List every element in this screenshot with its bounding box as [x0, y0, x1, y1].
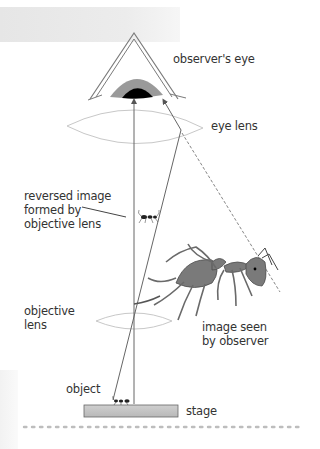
- eye-lens-icon: [67, 110, 203, 144]
- light-rays: [113, 101, 280, 404]
- label-eye-lens: eye lens: [211, 119, 258, 133]
- image-seen-ant-icon: [148, 244, 278, 320]
- label-reversed-image: reversed image formed by objective lens: [24, 189, 111, 231]
- label-objective-lens: objective lens: [24, 304, 75, 332]
- label-stage: stage: [186, 404, 217, 418]
- observers-eye-icon: [88, 33, 186, 100]
- stage-platform: [84, 405, 178, 417]
- label-observers-eye: observer's eye: [173, 52, 255, 66]
- label-object: object: [66, 382, 100, 396]
- label-image-seen: image seen by observer: [202, 320, 268, 348]
- object-ant-icon: [113, 396, 130, 405]
